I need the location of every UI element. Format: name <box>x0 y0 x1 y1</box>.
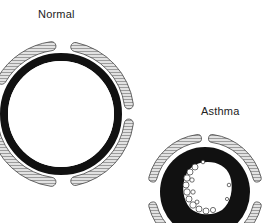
normal-airway <box>0 42 133 187</box>
normal-lumen <box>8 61 114 167</box>
asthma-airway <box>149 135 261 223</box>
airway-diagram <box>0 0 263 223</box>
